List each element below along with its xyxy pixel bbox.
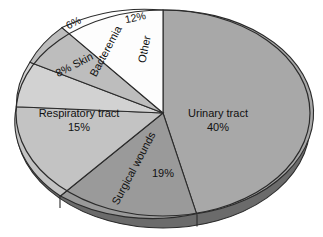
label-respiratory-tract-value: 15% (68, 121, 90, 133)
label-urinary-tract-name: Urinary tract (188, 107, 248, 119)
label-respiratory-tract-name: Respiratory tract (39, 107, 120, 119)
pie-chart-svg: Urinary tract 40% Respiratory tract 15% … (0, 0, 323, 237)
label-surgical-wounds-value: 19% (152, 167, 174, 179)
label-urinary-tract-value: 40% (207, 121, 229, 133)
pie-chart-figure: Urinary tract 40% Respiratory tract 15% … (0, 0, 323, 237)
